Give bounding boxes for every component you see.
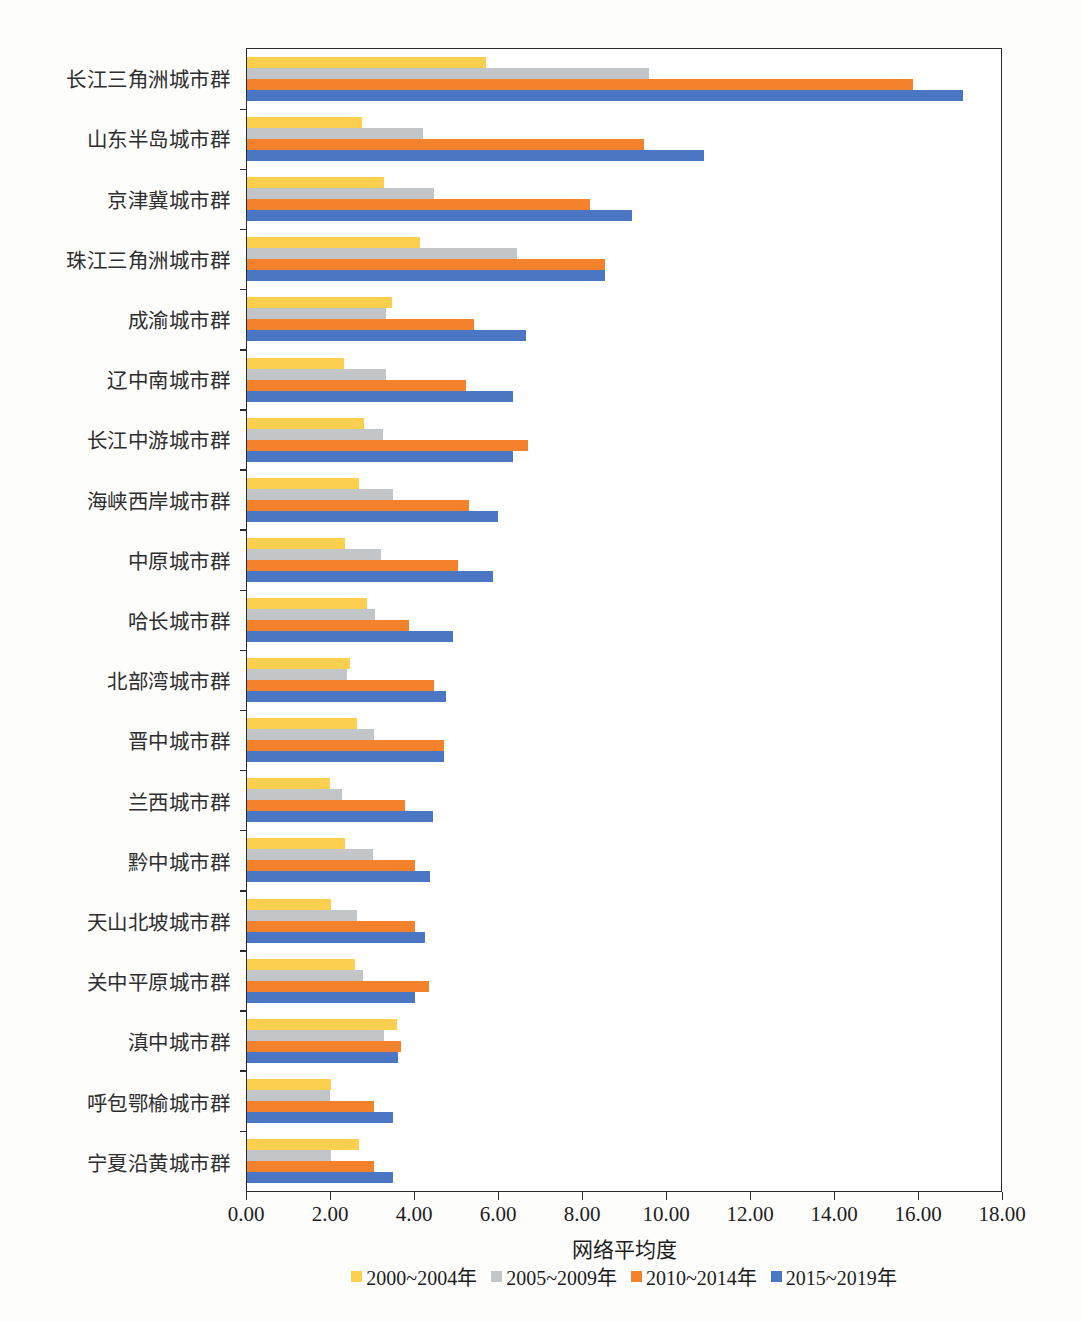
legend-label: 2000~2004年: [366, 1262, 477, 1291]
legend-item[interactable]: 2010~2014年: [631, 1262, 757, 1291]
category-label: 长江三角洲城市群: [0, 48, 238, 108]
category-axis-labels: 长江三角洲城市群山东半岛城市群京津冀城市群珠江三角洲城市群成渝城市群辽中南城市群…: [0, 48, 238, 1192]
bar-group: [247, 109, 1001, 169]
bar-stack: [247, 418, 1001, 462]
bar-stack: [247, 478, 1001, 522]
category-label: 黔中城市群: [0, 831, 238, 891]
category-label: 哈长城市群: [0, 590, 238, 650]
category-label: 滇中城市群: [0, 1011, 238, 1071]
bar: [247, 669, 347, 680]
legend-item[interactable]: 2000~2004年: [351, 1262, 477, 1291]
y-axis-tick: [240, 770, 247, 771]
bar: [247, 1161, 374, 1172]
bar: [247, 117, 362, 128]
legend-item[interactable]: 2015~2019年: [771, 1262, 897, 1291]
y-axis-tick: [240, 1010, 247, 1011]
bar: [247, 910, 357, 921]
bar: [247, 418, 364, 429]
x-axis-tick-label: 14.00: [810, 1202, 857, 1227]
category-label: 珠江三角洲城市群: [0, 229, 238, 289]
bar: [247, 319, 474, 330]
bar: [247, 199, 590, 210]
bar-stack: [247, 358, 1001, 402]
bar: [247, 511, 498, 522]
category-label: 兰西城市群: [0, 770, 238, 830]
bar: [247, 538, 345, 549]
bar: [247, 838, 345, 849]
bar-stack: [247, 718, 1001, 762]
bar: [247, 718, 357, 729]
bar: [247, 68, 649, 79]
x-axis-tick-label: 0.00: [228, 1202, 265, 1227]
bar-stack: [247, 899, 1001, 943]
legend-label: 2005~2009年: [506, 1262, 617, 1291]
bar: [247, 981, 429, 992]
bar: [247, 1112, 393, 1123]
x-axis-tick: [498, 1192, 499, 1200]
bar: [247, 560, 458, 571]
bar-group: [247, 350, 1001, 410]
x-axis-tick: [750, 1192, 751, 1200]
bar: [247, 210, 632, 221]
bar-group: [247, 710, 1001, 770]
bar: [247, 270, 605, 281]
bar: [247, 248, 517, 259]
bar-stack: [247, 1139, 1001, 1183]
category-label: 晋中城市群: [0, 710, 238, 770]
y-axis-tick: [240, 890, 247, 891]
bar: [247, 429, 383, 440]
bar: [247, 1041, 401, 1052]
bar: [247, 849, 373, 860]
x-axis-tick-label: 6.00: [480, 1202, 517, 1227]
y-axis-tick: [240, 349, 247, 350]
bar-group: [247, 289, 1001, 349]
x-axis-tick-label: 4.00: [396, 1202, 433, 1227]
bar: [247, 631, 453, 642]
bar-group: [247, 650, 1001, 710]
y-axis-tick: [240, 710, 247, 711]
x-axis-tick: [666, 1192, 667, 1200]
y-axis-tick: [240, 229, 247, 230]
legend: 2000~2004年2005~2009年2010~2014年2015~2019年: [246, 1262, 1002, 1291]
bar: [247, 691, 446, 702]
bar: [247, 440, 528, 451]
x-axis-tick-label: 16.00: [894, 1202, 941, 1227]
bar: [247, 259, 605, 270]
bar-stack: [247, 177, 1001, 221]
bar: [247, 921, 415, 932]
bar-rows: [247, 49, 1001, 1191]
bar: [247, 139, 644, 150]
y-axis-tick: [240, 830, 247, 831]
bar: [247, 932, 425, 943]
category-label: 辽中南城市群: [0, 349, 238, 409]
bar: [247, 970, 363, 981]
bar: [247, 1079, 331, 1090]
bar-stack: [247, 838, 1001, 882]
y-axis-tick: [240, 1070, 247, 1071]
bar: [247, 1172, 393, 1183]
bar: [247, 811, 433, 822]
category-label: 宁夏沿黄城市群: [0, 1132, 238, 1192]
bar: [247, 297, 392, 308]
bar: [247, 1019, 397, 1030]
bar: [247, 177, 384, 188]
y-axis-tick: [240, 109, 247, 110]
bar: [247, 128, 423, 139]
bar-stack: [247, 778, 1001, 822]
bar-stack: [247, 237, 1001, 281]
x-axis-tick: [918, 1192, 919, 1200]
bar: [247, 451, 513, 462]
legend-item[interactable]: 2005~2009年: [491, 1262, 617, 1291]
y-axis-tick: [240, 289, 247, 290]
bar: [247, 1139, 359, 1150]
x-axis-tick: [834, 1192, 835, 1200]
bar: [247, 489, 393, 500]
bar-stack: [247, 57, 1001, 101]
y-axis-tick: [240, 590, 247, 591]
y-axis-tick: [240, 409, 247, 410]
bar: [247, 79, 913, 90]
bar-group: [247, 410, 1001, 470]
bar: [247, 308, 386, 319]
bar: [247, 1030, 384, 1041]
bar-group: [247, 770, 1001, 830]
